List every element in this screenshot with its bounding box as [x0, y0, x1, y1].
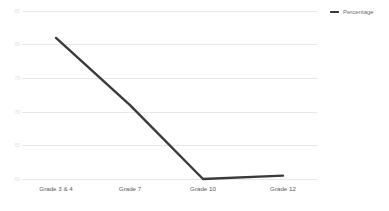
series-line-percentage	[56, 38, 283, 179]
x-axis-tick-label: Grade 7	[119, 186, 141, 192]
legend-line-swatch-icon	[330, 11, 339, 14]
chart-legend[interactable]: Percentage	[330, 9, 374, 15]
legend-label-percentage: Percentage	[343, 9, 374, 15]
x-axis-tick-label: Grade 10	[190, 186, 216, 192]
line-chart: 85 80 75 70 65 60 Grade 3 & 4 Grade 7 Gr…	[0, 0, 389, 211]
x-axis-tick-label: Grade 12	[270, 186, 296, 192]
series-percentage	[0, 0, 389, 211]
x-axis-tick-label: Grade 3 & 4	[39, 186, 72, 192]
